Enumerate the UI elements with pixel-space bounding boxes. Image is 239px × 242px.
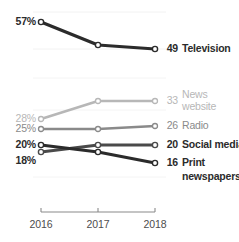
line-chart: 57% 28% 25% 20% 18% 49 33 26 20 16 Telev…: [0, 0, 239, 242]
series-label-radio: Radio: [182, 120, 208, 131]
series-label-print-newspapers-line1: Print: [182, 157, 205, 168]
start-label-radio: 25%: [4, 123, 36, 134]
series-label-print-newspapers-line2: newspapers: [182, 171, 239, 182]
x-tick-2018: 2018: [135, 218, 175, 230]
start-label-television: 57%: [4, 16, 36, 27]
end-value-social-media: 20: [160, 139, 178, 150]
series-television: [38, 19, 157, 51]
start-label-social-media: 20%: [4, 139, 36, 150]
end-value-television: 49: [160, 43, 178, 54]
end-value-news-website: 33: [160, 95, 178, 106]
x-axis: [41, 208, 155, 212]
start-label-print-newspapers: 18%: [4, 155, 36, 166]
series-label-news-website-line1: News: [182, 89, 207, 100]
x-tick-2017: 2017: [78, 218, 118, 230]
series-radio: [39, 124, 158, 132]
end-value-print-newspapers: 16: [160, 157, 178, 168]
series-label-social-media: Social media: [182, 139, 239, 150]
series-label-television: Television: [182, 43, 231, 54]
end-value-radio: 26: [160, 120, 178, 131]
series-label-news-website-line2: website: [182, 101, 216, 112]
x-tick-2016: 2016: [21, 218, 61, 230]
